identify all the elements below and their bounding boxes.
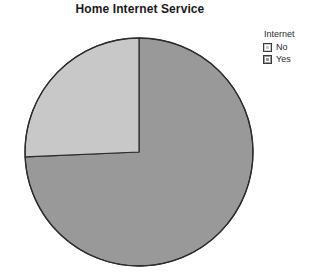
legend-item-yes[interactable]: Yes <box>263 54 321 65</box>
pie-slice-no[interactable] <box>25 38 139 157</box>
pie-slices <box>25 38 253 266</box>
legend-title: Internet <box>264 29 321 40</box>
chart-screenshot: Home Internet Service Internet No Yes <box>0 0 323 277</box>
legend-swatch-yes <box>263 55 272 64</box>
legend-swatch-no <box>263 43 272 52</box>
legend-label-yes: Yes <box>276 54 291 65</box>
legend-item-no[interactable]: No <box>263 42 321 53</box>
pie-chart-svg <box>0 20 262 277</box>
legend-label-no: No <box>276 42 288 53</box>
legend: Internet No Yes <box>263 29 321 66</box>
pie-chart-plot-area <box>0 20 262 277</box>
page-title: Home Internet Service <box>0 2 280 16</box>
